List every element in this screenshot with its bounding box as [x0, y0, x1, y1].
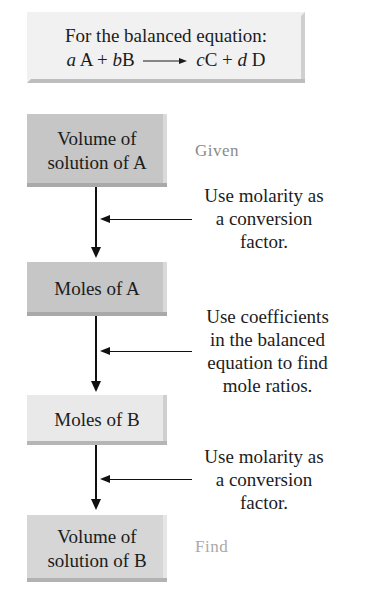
conversion-note-1: Use molarity as a conversion factor. [190, 184, 338, 253]
equation-title: For the balanced equation: [65, 24, 267, 48]
bevel-edge [27, 578, 167, 582]
note-line: mole ratios. [190, 374, 345, 397]
step-volume-solution-a: Volume of solution of A [27, 114, 167, 187]
note-line: in the balanced [190, 328, 345, 351]
bevel-edge [163, 262, 167, 316]
step-label-line2: solution of A [47, 151, 146, 175]
bevel-edge [163, 395, 167, 445]
step-label-line1: Volume of [57, 525, 136, 549]
note-line: equation to find [190, 351, 345, 374]
conversion-pointer-line [106, 351, 192, 352]
coefficient-c: c [196, 49, 204, 70]
conversion-pointer-line [106, 219, 192, 220]
bevel-edge [163, 515, 167, 582]
note-line: Use molarity as [190, 184, 338, 207]
flow-arrow-line [95, 445, 97, 501]
given-label: Given [195, 141, 239, 161]
step-volume-solution-b: Volume of solution of B [27, 515, 167, 582]
step-moles-b: Moles of B [27, 395, 167, 445]
bevel-edge [27, 441, 167, 445]
note-line: factor. [190, 491, 338, 514]
reaction-arrow-icon [143, 56, 187, 66]
conversion-note-2: Use coefficients in the balanced equatio… [190, 305, 345, 397]
plus-sign: + [222, 49, 233, 70]
arrow-left-icon [100, 215, 110, 223]
plus-sign: + [97, 49, 108, 70]
flow-arrow-line [95, 187, 97, 249]
step-moles-a: Moles of A [27, 262, 167, 316]
bevel-edge [27, 312, 167, 316]
find-label: Find [195, 537, 228, 557]
coefficient-b: b [113, 49, 123, 70]
step-label-line1: Moles of A [54, 277, 140, 301]
arrow-down-icon [91, 381, 101, 392]
note-line: factor. [190, 230, 338, 253]
arrow-left-icon [100, 347, 110, 355]
arrow-down-icon [91, 499, 101, 510]
coefficient-d: d [238, 49, 248, 70]
arrow-down-icon [91, 247, 101, 258]
coefficient-a: a [66, 49, 76, 70]
note-line: a conversion [190, 207, 338, 230]
bevel-edge [163, 114, 167, 187]
note-line: Use molarity as [190, 445, 338, 468]
arrow-left-icon [100, 475, 110, 483]
step-label-line2: solution of B [47, 549, 146, 573]
conversion-note-3: Use molarity as a conversion factor. [190, 445, 338, 514]
note-line: a conversion [190, 468, 338, 491]
species-d: D [252, 49, 266, 70]
balanced-equation-box: For the balanced equation: a A + bB cC +… [27, 12, 305, 83]
note-line: Use coefficients [190, 305, 345, 328]
bevel-edge [301, 12, 305, 83]
species-b: B [122, 49, 135, 70]
flow-arrow-line [95, 316, 97, 383]
species-a: A [80, 49, 93, 70]
step-label-line1: Moles of B [54, 408, 140, 432]
bevel-edge [27, 183, 167, 187]
step-label-line1: Volume of [57, 127, 136, 151]
conversion-pointer-line [106, 479, 192, 480]
bevel-edge [27, 79, 305, 83]
balanced-equation: a A + bB cC + d D [66, 48, 265, 72]
species-c: C [205, 49, 218, 70]
